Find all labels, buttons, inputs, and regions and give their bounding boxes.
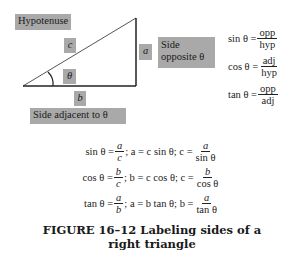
c-label: c xyxy=(64,38,76,53)
fraction: opphyp xyxy=(257,27,277,51)
fraction: ac xyxy=(115,140,124,164)
denominator: b xyxy=(114,204,123,216)
hypotenuse-label: Hypotenuse xyxy=(15,14,71,30)
formula-lhs: tan θ = xyxy=(228,89,257,100)
fraction: asin θ xyxy=(194,140,218,164)
denominator: sin θ xyxy=(194,152,218,164)
b-label: b xyxy=(74,91,86,106)
denominator: c xyxy=(114,178,123,190)
numerator: a xyxy=(202,192,211,204)
denominator: cos θ xyxy=(195,178,221,190)
denominator: c xyxy=(115,152,124,164)
formula-tan-solve: tan θ = ab ; a = b tan θ; b = atan θ xyxy=(0,192,304,216)
fraction: adjhyp xyxy=(259,55,279,79)
side-opposite-line1: Side xyxy=(161,39,212,51)
formula-cos-ratio: cos θ = adjhyp xyxy=(228,55,280,79)
formula-lhs: cos θ = xyxy=(83,172,113,183)
numerator: b xyxy=(114,166,123,178)
formula-middle: ; a = c sin θ; c = xyxy=(125,146,192,157)
angle-arc xyxy=(48,72,53,86)
denominator: hyp xyxy=(259,67,279,79)
formula-lhs: sin θ = xyxy=(86,146,114,157)
formula-sin-solve: sin θ = ac ; a = c sin θ; c = asin θ xyxy=(0,140,304,164)
theta-label: θ xyxy=(63,69,76,84)
formula-middle: ; a = b tan θ; b = xyxy=(124,198,193,209)
side-adjacent-label: Side adjacent to θ xyxy=(30,108,126,124)
side-opposite-label: Side opposite θ xyxy=(158,37,215,68)
a-label: a xyxy=(139,44,152,60)
numerator: a xyxy=(201,140,210,152)
formula-lhs: cos θ = xyxy=(228,61,258,72)
formula-tan-ratio: tan θ = oppadj xyxy=(228,83,279,107)
fraction: atan θ xyxy=(194,192,218,216)
fraction: bcos θ xyxy=(195,166,221,190)
side-opposite-line2: opposite θ xyxy=(161,51,212,63)
fraction: ab xyxy=(114,192,123,216)
formula-lhs: sin θ = xyxy=(228,33,256,44)
formula-middle: ; b = c cos θ; c = xyxy=(124,172,194,183)
figure-caption-line1: FIGURE 16–12 Labeling sides of a xyxy=(0,223,304,237)
formula-lhs: tan θ = xyxy=(84,198,113,209)
denominator: adj xyxy=(259,95,276,107)
denominator: hyp xyxy=(257,39,277,51)
figure-caption-line2: right triangle xyxy=(0,237,304,251)
fraction: oppadj xyxy=(258,83,278,107)
numerator: adj xyxy=(261,55,278,67)
fraction: bc xyxy=(114,166,123,190)
numerator: b xyxy=(203,166,212,178)
numerator: opp xyxy=(258,83,278,95)
numerator: opp xyxy=(257,27,277,39)
numerator: a xyxy=(114,192,123,204)
formula-sin-ratio: sin θ = opphyp xyxy=(228,27,278,51)
denominator: tan θ xyxy=(194,204,218,216)
numerator: a xyxy=(115,140,124,152)
formula-cos-solve: cos θ = bc ; b = c cos θ; c = bcos θ xyxy=(0,166,304,190)
